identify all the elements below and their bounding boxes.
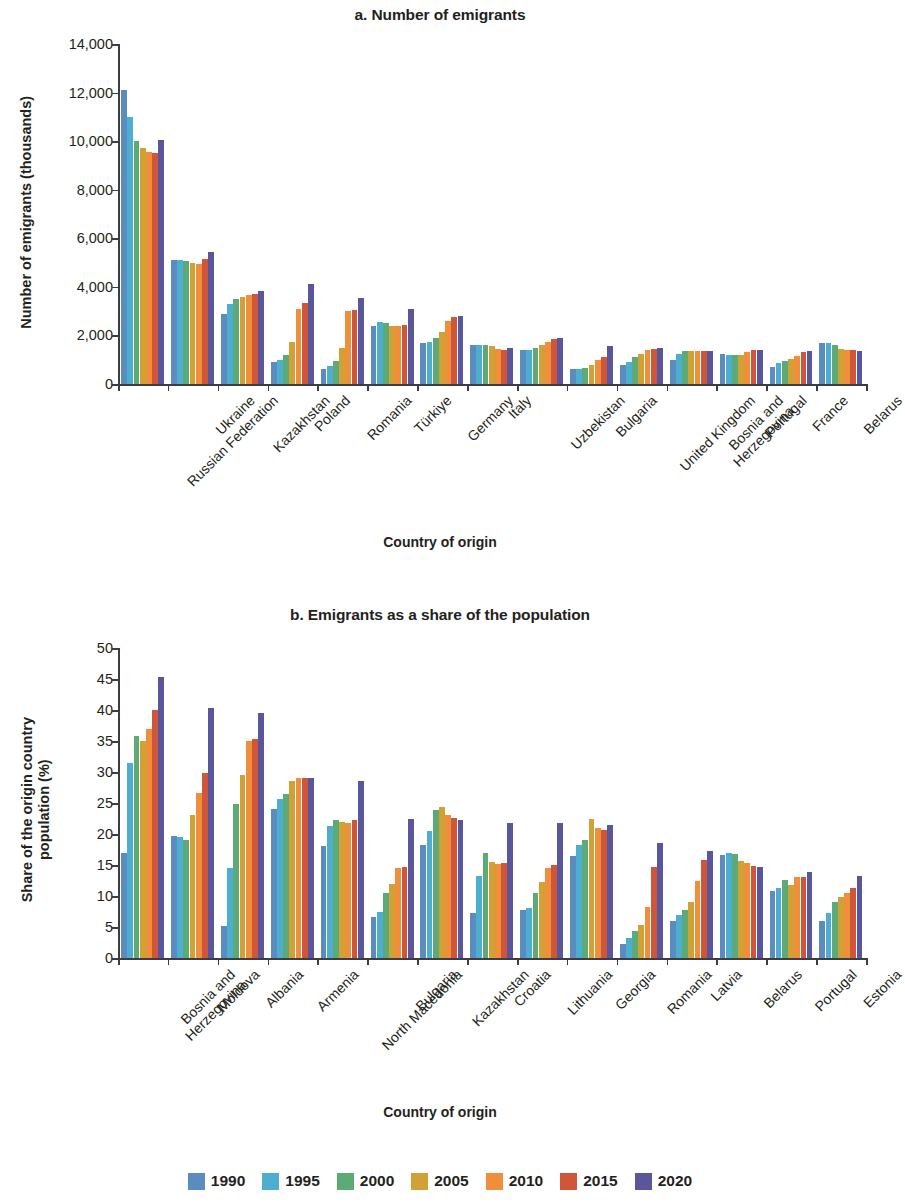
bar [819, 921, 825, 958]
bar [788, 885, 794, 958]
bar [695, 351, 701, 384]
legend-swatch-icon [337, 1173, 354, 1190]
bar [651, 349, 657, 384]
panel-a-plot-area [118, 44, 866, 384]
bar [838, 349, 844, 384]
x-tick-label: Belarus [861, 393, 905, 437]
bar [576, 845, 582, 958]
bar [227, 868, 233, 958]
bar [670, 360, 676, 384]
bar [595, 360, 601, 384]
bar [676, 915, 682, 958]
bar-group [570, 44, 613, 384]
x-tick-mark [866, 958, 868, 965]
bar [339, 348, 345, 384]
bar-group [371, 648, 414, 958]
bar [321, 846, 327, 958]
x-tick-mark [667, 958, 669, 965]
bar-group [221, 648, 264, 958]
bar [626, 362, 632, 384]
bar [271, 809, 277, 958]
bar [451, 317, 457, 384]
bar [327, 366, 333, 384]
bar [539, 882, 545, 958]
bar [171, 260, 177, 384]
panel-a-number-of-emigrants: a. Number of emigrants Number of emigran… [0, 0, 880, 600]
bar-group [819, 44, 862, 384]
bar [557, 338, 563, 384]
bar [134, 141, 140, 384]
bar-group [371, 44, 414, 384]
bar [751, 866, 757, 958]
bar-group [770, 44, 813, 384]
x-tick-mark [517, 958, 519, 965]
legend-item-2000: 2000 [337, 1172, 394, 1190]
bar [208, 252, 214, 384]
bar [782, 361, 788, 384]
x-axis-line [118, 384, 866, 386]
x-tick-label: Germany [465, 393, 517, 445]
bar [576, 369, 582, 384]
legend-label: 1995 [285, 1172, 319, 1190]
bar [289, 342, 295, 385]
bar [701, 860, 707, 958]
bar [302, 303, 308, 384]
bar [296, 309, 302, 384]
bar [589, 819, 595, 959]
bar [770, 891, 776, 958]
panel-a-y-ticks: 02,0004,0006,0008,00010,00012,00014,000 [0, 44, 118, 384]
bar [738, 355, 744, 384]
bar [483, 853, 489, 958]
bar [794, 877, 800, 958]
bar [701, 351, 707, 384]
bar [158, 677, 164, 958]
bar [427, 342, 433, 385]
bar [794, 356, 800, 384]
x-tick-label: France [810, 393, 852, 435]
bar [707, 351, 713, 384]
panel-b-title: b. Emigrants as a share of the populatio… [0, 600, 880, 624]
bar [595, 828, 601, 958]
bar [258, 291, 264, 385]
bar-group [221, 44, 264, 384]
bar [395, 868, 401, 958]
bar [246, 741, 252, 958]
x-tick-mark [168, 958, 170, 965]
x-tick-label: Latvia [708, 967, 745, 1004]
legend-item-2005: 2005 [411, 1172, 468, 1190]
bar [776, 363, 782, 384]
bar-group [271, 648, 314, 958]
bar [657, 843, 663, 958]
y-axis-line [118, 648, 120, 958]
bar [807, 351, 813, 384]
x-tick-label: Belarus [761, 967, 805, 1011]
x-tick-mark [716, 958, 718, 965]
bar [127, 117, 133, 384]
x-tick-label: Lithuania [564, 967, 615, 1018]
bar [844, 350, 850, 384]
x-tick-label: Estonia [861, 967, 905, 1011]
bar [302, 778, 308, 958]
bar [439, 807, 445, 958]
bar [433, 338, 439, 384]
bar [121, 90, 127, 384]
bar [483, 345, 489, 384]
bar [233, 804, 239, 958]
bar [495, 864, 501, 958]
bar [539, 345, 545, 384]
legend-item-2015: 2015 [560, 1172, 617, 1190]
bar [770, 367, 776, 384]
bar [607, 825, 613, 958]
bar [776, 888, 782, 958]
bar [533, 348, 539, 384]
x-tick-mark [567, 958, 569, 965]
bar [520, 910, 526, 958]
bar-group [171, 44, 214, 384]
bar [501, 863, 507, 958]
bar [476, 345, 482, 384]
bar-group [819, 648, 862, 958]
x-tick-mark [716, 384, 718, 391]
bar [333, 361, 339, 384]
bar [526, 908, 532, 958]
bar [152, 710, 158, 958]
